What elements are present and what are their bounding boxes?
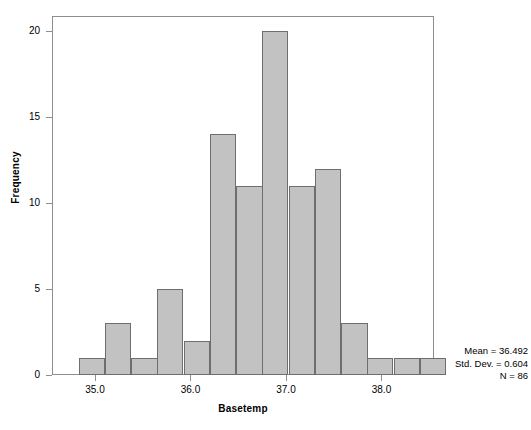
histogram-bar [341,323,367,375]
stat-std-dev: Std. Dev. = 0.604 [436,358,528,371]
histogram-bar [210,134,236,375]
x-axis-title: Basetemp [52,403,434,414]
x-tick-label: 36.0 [170,385,210,395]
stat-n: N = 86 [436,370,528,383]
y-tick-mark [46,117,52,118]
y-tick-label: 20 [29,26,40,36]
x-axis: Basetemp 35.036.037.038.0 [0,375,531,430]
y-tick-label: 5 [34,284,40,294]
histogram-bar [184,341,210,375]
statistics-annotation: Mean = 36.492 Std. Dev. = 0.604 N = 86 [436,345,528,383]
histogram-bar [131,358,157,375]
y-tick-mark [46,203,52,204]
y-axis: Frequency 05101520 [0,0,52,430]
histogram-figure: Frequency 05101520 Basetemp 35.036.037.0… [0,0,531,430]
histogram-bar [289,186,315,375]
y-tick-label: 10 [29,198,40,208]
x-tick-mark [381,375,382,381]
histogram-bar [262,31,288,375]
histogram-bar [315,169,341,375]
histogram-bar [105,323,131,375]
stat-mean: Mean = 36.492 [436,345,528,358]
x-tick-mark [190,375,191,381]
histogram-bar [394,358,420,375]
x-tick-label: 35.0 [75,385,115,395]
x-tick-label: 37.0 [266,385,306,395]
y-tick-mark [46,289,52,290]
x-tick-mark [286,375,287,381]
x-tick-mark [95,375,96,381]
histogram-bar [79,358,105,375]
y-tick-label: 15 [29,112,40,122]
histogram-bar [157,289,183,375]
x-tick-label: 38.0 [361,385,401,395]
y-tick-mark [46,31,52,32]
histogram-bar [236,186,262,375]
histogram-bar [367,358,393,375]
y-axis-title: Frequency [10,118,21,238]
